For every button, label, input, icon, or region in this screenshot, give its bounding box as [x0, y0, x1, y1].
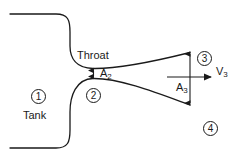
nozzle-diagram: Throat Tank A2 A3 V3 1 2 3 4	[0, 0, 245, 158]
exit-area-subscript: 3	[183, 86, 187, 95]
station-marker-2: 2	[86, 88, 101, 103]
station-marker-3: 3	[197, 51, 212, 66]
exit-velocity-subscript: 3	[223, 70, 227, 79]
station-marker-4: 4	[203, 121, 218, 136]
throat-label: Throat	[77, 50, 109, 61]
station-marker-1: 1	[31, 89, 46, 104]
exit-velocity-label: V3	[216, 66, 228, 77]
tank-label: Tank	[23, 110, 46, 121]
throat-area-subscript: 2	[107, 72, 111, 81]
exit-area-label: A3	[176, 82, 188, 93]
throat-area-label: A2	[100, 68, 112, 79]
